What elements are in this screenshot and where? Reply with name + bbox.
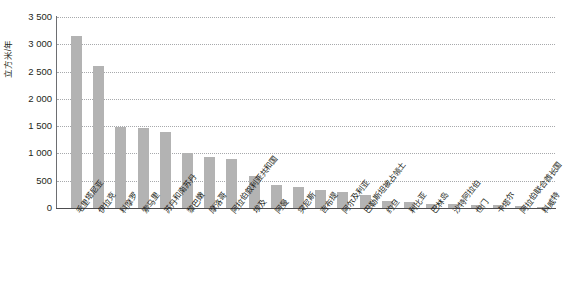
y-axis-tick-label: 2 000 bbox=[4, 94, 52, 104]
bar-chart: 立方米/年 05001 0001 5002 0002 5003 0003 500… bbox=[0, 0, 564, 285]
y-axis-tick-label: 0 bbox=[4, 203, 52, 213]
y-axis-tick-label: 2 500 bbox=[4, 67, 52, 77]
x-axis-category-labels: 毛里塔尼亚伊拉克科摩罗索马里苏丹和南苏丹黎巴嫩摩洛哥阿拉伯叙利亚共和国埃及阿曼突… bbox=[57, 210, 562, 285]
y-axis-tick-labels: 05001 0001 5002 0002 5003 0003 500 bbox=[0, 17, 52, 208]
y-axis-tick-label: 3 500 bbox=[4, 12, 52, 22]
y-axis-tick-label: 1 000 bbox=[4, 148, 52, 158]
y-axis-tick-label: 1 500 bbox=[4, 121, 52, 131]
bar bbox=[71, 36, 82, 208]
y-axis-tick-label: 3 000 bbox=[4, 39, 52, 49]
bars-layer bbox=[57, 17, 555, 208]
y-axis-tick-label: 500 bbox=[4, 176, 52, 186]
